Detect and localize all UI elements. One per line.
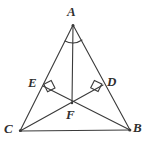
segment-cevian-BE — [43, 86, 130, 130]
geometry-figure: A E D F C B — [0, 0, 148, 146]
vertex-label-d: D — [107, 75, 116, 88]
segment-side-CB — [20, 130, 130, 131]
vertex-label-c: C — [4, 122, 13, 135]
vertex-label-f: F — [66, 108, 75, 121]
vertex-dot-F — [71, 102, 73, 104]
angle-arc-A-left-icon — [65, 41, 73, 43]
geometry-canvas — [0, 0, 148, 146]
segment-cevian-AF — [72, 26, 73, 103]
angle-arc-A-right-icon — [73, 40, 82, 43]
vertex-dot-B — [128, 128, 131, 131]
vertex-label-b: B — [133, 121, 142, 134]
vertex-label-a: A — [67, 5, 76, 18]
vertex-label-e: E — [28, 76, 37, 89]
segment-cevian-CD — [20, 85, 103, 131]
vertex-dot-A — [72, 24, 75, 27]
right-angle-at-D-icon — [91, 80, 102, 91]
right-angle-at-E-icon — [44, 81, 55, 92]
vertex-dot-C — [19, 129, 22, 132]
